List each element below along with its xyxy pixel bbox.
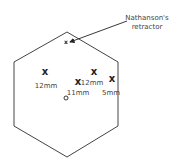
port-x-mark: x [109, 73, 116, 84]
port-markers: xx12mmx11mmx12mmx5mm [35, 38, 120, 97]
port-size-label: 11mm [67, 89, 90, 97]
port-x-mark: x [42, 66, 49, 77]
port-placement-diagram: Nathanson's retractor xx12mmx11mmx12mmx5… [0, 0, 177, 165]
port-size-label: 12mm [81, 79, 104, 87]
retractor-pointer-arrow [70, 21, 127, 42]
port-size-label: 12mm [35, 82, 58, 90]
port-x-mark: x [64, 38, 68, 45]
retractor-label-line2: retractor [132, 23, 163, 31]
port-x-mark: x [91, 66, 98, 77]
retractor-label-line1: Nathanson's [125, 14, 169, 22]
port-size-label: 5mm [102, 89, 120, 97]
